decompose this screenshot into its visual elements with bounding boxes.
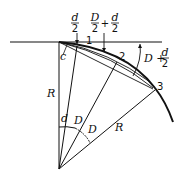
- arrowhead-Dd2-top: [138, 44, 142, 48]
- label-c: c: [60, 50, 66, 63]
- label-point-3: 3: [157, 81, 163, 92]
- label-d-half-den: 2: [72, 23, 78, 34]
- label-R-left: R: [46, 87, 55, 100]
- radius-line-1: [59, 46, 77, 169]
- label-angle-D2: D: [87, 123, 97, 136]
- radius-line-3: [59, 90, 155, 169]
- label-d-half2-den: 2: [112, 23, 118, 34]
- label-angle-D1: D: [73, 114, 83, 127]
- label-R-right: R: [114, 121, 123, 134]
- label-angle-d: d: [61, 112, 68, 125]
- label-point-1: 1: [86, 35, 92, 46]
- label-plus: +: [101, 18, 109, 29]
- label-d-half3-den: 2: [162, 58, 168, 69]
- angle-arc-d: [59, 127, 75, 128]
- curve-geometry-diagram: d 2 D 2 + d 2 D + d 2 c 1 2 3 R R d D D: [0, 0, 182, 177]
- label-D-half-den: 2: [92, 23, 98, 34]
- label-point-2: 2: [119, 51, 125, 62]
